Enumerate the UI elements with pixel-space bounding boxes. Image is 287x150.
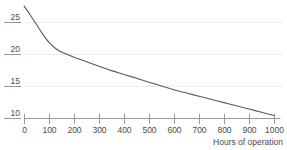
x-axis-tick-label: 100 xyxy=(42,125,56,135)
x-axis-tick-label: 500 xyxy=(142,125,156,135)
x-axis-tick-label: 700 xyxy=(192,125,206,135)
y-axis-tick-label: 15 xyxy=(11,76,21,86)
x-axis-tick-label: 300 xyxy=(92,125,106,135)
x-axis-tick-label: 400 xyxy=(117,125,131,135)
x-axis-tick-label: 600 xyxy=(167,125,181,135)
x-axis-tick-label: 900 xyxy=(242,125,256,135)
chart-container: 10152025 0100200300400500600700800900100… xyxy=(0,0,287,150)
x-axis-tick-label: 1000 xyxy=(265,125,284,135)
y-axis-tick-label: 25 xyxy=(11,12,21,22)
x-axis-tick-label: 200 xyxy=(67,125,81,135)
x-axis-tick-label: 0 xyxy=(22,125,27,135)
y-axis-tick-label: 20 xyxy=(11,44,21,54)
y-axis-tick-label: 10 xyxy=(11,108,21,118)
line-chart: 10152025 0100200300400500600700800900100… xyxy=(0,0,287,150)
x-axis-title: Hours of operation xyxy=(213,137,283,147)
x-axis-tick-label: 800 xyxy=(217,125,231,135)
